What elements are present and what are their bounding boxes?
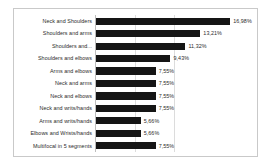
category-label: Neck and arms — [14, 77, 95, 89]
bar[interactable] — [96, 30, 200, 37]
bar[interactable] — [96, 142, 156, 149]
value-label: 7,55% — [156, 65, 175, 77]
bar-rows: Neck and Shoulders16,98%Shoulders and ar… — [95, 15, 253, 152]
value-label: 7,55% — [156, 140, 175, 152]
bar[interactable] — [96, 67, 156, 74]
plot-area: Neck and Shoulders16,98%Shoulders and ar… — [95, 15, 253, 152]
category-label: Shoulders and arms — [14, 27, 95, 39]
value-label: 5,66% — [141, 127, 160, 139]
bar-row: Shoulders and elbows9,43% — [95, 52, 253, 64]
category-label: Shoulders and elbows — [14, 52, 95, 64]
bar-row: Neck and writs/hands7,55% — [95, 102, 253, 114]
category-label: Arms and writs/hands — [14, 115, 95, 127]
bar-row: Arms and writs/hands5,66% — [95, 115, 253, 127]
bar[interactable] — [96, 55, 170, 62]
bar-row: Shoulders and arms13,21% — [95, 27, 253, 39]
value-label: 11,32% — [185, 40, 206, 52]
category-label: Neck and Shoulders — [14, 15, 95, 27]
value-label: 16,98% — [230, 15, 252, 27]
bar-row: Neck and arms7,55% — [95, 77, 253, 89]
bar[interactable] — [96, 18, 230, 25]
category-label: Elbows and Wrists/hands — [14, 127, 95, 139]
bar-row: Multifocal in 5 segments7,55% — [95, 140, 253, 152]
chart-frame: Neck and Shoulders16,98%Shoulders and ar… — [13, 8, 258, 157]
bar-row: Neck and Shoulders16,98% — [95, 15, 253, 27]
bar-row: Elbows and Wrists/hands5,66% — [95, 127, 253, 139]
value-label: 7,55% — [156, 90, 175, 102]
bar[interactable] — [96, 105, 156, 112]
bar[interactable] — [96, 43, 185, 50]
bar-row: Shoulders and...11,32% — [95, 40, 253, 52]
category-label: Shoulders and... — [14, 40, 95, 52]
value-label: 9,43% — [170, 52, 189, 64]
value-label: 13,21% — [200, 27, 222, 39]
value-label: 7,55% — [156, 102, 175, 114]
category-label: Neck and writs/hands — [14, 102, 95, 114]
bar[interactable] — [96, 92, 156, 99]
value-label: 5,66% — [141, 115, 160, 127]
bar[interactable] — [96, 117, 141, 124]
category-label: Arms and elbows — [14, 65, 95, 77]
bar-row: Neck and elbows7,55% — [95, 90, 253, 102]
bar-row: Arms and elbows7,55% — [95, 65, 253, 77]
value-label: 7,55% — [156, 77, 175, 89]
category-label: Neck and elbows — [14, 90, 95, 102]
category-label: Multifocal in 5 segments — [14, 140, 95, 152]
bar[interactable] — [96, 130, 141, 137]
bar[interactable] — [96, 80, 156, 87]
